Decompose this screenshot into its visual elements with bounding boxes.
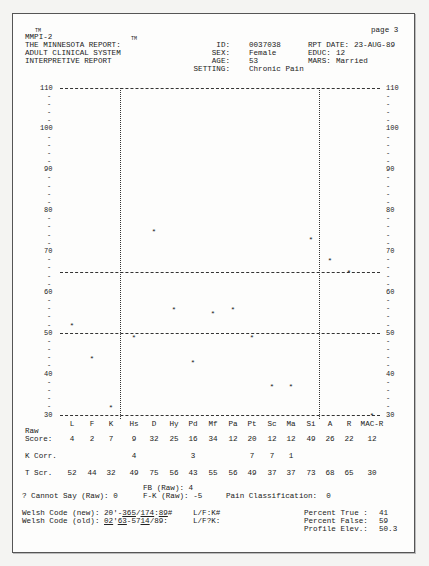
score-cell: 9 bbox=[132, 435, 137, 443]
y-axis-tick: - bbox=[47, 313, 51, 320]
scale-label-d: D bbox=[152, 420, 157, 428]
trademark-mark: TM bbox=[131, 35, 137, 43]
y-axis-tick-right: - bbox=[386, 264, 390, 271]
y-axis-tick-right: - bbox=[386, 223, 390, 230]
y-axis-tick: - bbox=[47, 281, 51, 288]
y-axis-tick: - bbox=[47, 174, 51, 181]
y-axis-tick: - bbox=[47, 240, 51, 247]
setting-value: Chronic Pain bbox=[249, 65, 304, 73]
y-axis-tick: - bbox=[47, 191, 51, 198]
data-point-r: * bbox=[347, 269, 352, 277]
y-axis-tick: - bbox=[47, 150, 51, 157]
score-cell: 49 bbox=[129, 469, 138, 477]
y-axis-tick-right: - bbox=[386, 403, 390, 410]
score-cell: 75 bbox=[149, 469, 158, 477]
y-axis-tick: - bbox=[47, 322, 51, 329]
y-axis-tick-right: - bbox=[386, 322, 390, 329]
score-cell: 37 bbox=[267, 469, 276, 477]
data-point-pa: * bbox=[231, 306, 236, 314]
y-axis-tick-right: - bbox=[386, 338, 390, 345]
y-axis-label-right: 110 bbox=[386, 85, 399, 92]
y-axis-tick: - bbox=[47, 199, 51, 206]
data-point-si: * bbox=[309, 236, 314, 244]
raw-label-1: Raw bbox=[25, 427, 39, 435]
scale-label-hs: Hs bbox=[129, 420, 138, 428]
score-cell: 32 bbox=[149, 435, 158, 443]
percent-true-value: 41 bbox=[379, 509, 388, 517]
y-axis-label-right: 80 bbox=[386, 207, 394, 214]
profile-elevation-value: 50.3 bbox=[379, 525, 397, 533]
percent-false-label: Percent False: bbox=[304, 517, 368, 525]
welsh-new-lfk: L/F:K# bbox=[193, 509, 220, 517]
scale-label-hy: Hy bbox=[169, 420, 178, 428]
y-axis-tick-right: - bbox=[386, 117, 390, 124]
y-axis-tick-right: - bbox=[386, 379, 390, 386]
score-cell: 7 bbox=[109, 435, 114, 443]
y-axis-tick: - bbox=[47, 297, 51, 304]
y-axis-tick-right: - bbox=[386, 142, 390, 149]
data-point-l: * bbox=[70, 322, 75, 330]
y-axis-tick-right: - bbox=[386, 93, 390, 100]
y-axis-label-right: 40 bbox=[386, 371, 394, 378]
percent-true-label: Percent True : bbox=[304, 509, 368, 517]
data-point-f: * bbox=[90, 355, 95, 363]
score-cell: 16 bbox=[188, 435, 197, 443]
scale-label-pt: Pt bbox=[247, 420, 256, 428]
y-axis-tick: - bbox=[47, 305, 51, 312]
group-separator bbox=[319, 88, 320, 419]
y-axis-tick-right: - bbox=[386, 387, 390, 394]
mars-value: Married bbox=[336, 57, 368, 65]
scale-label-si: Si bbox=[306, 420, 315, 428]
y-axis-tick: - bbox=[47, 223, 51, 230]
y-axis-tick: - bbox=[47, 395, 51, 402]
score-cell: 55 bbox=[208, 469, 217, 477]
y-axis-tick-right: - bbox=[386, 150, 390, 157]
score-cell: 3 bbox=[191, 452, 196, 460]
score-cell: 52 bbox=[67, 469, 76, 477]
rpt-date-value: 23-AUG-89 bbox=[354, 41, 395, 49]
y-axis-label-right: 90 bbox=[386, 166, 394, 173]
educ-value: 12 bbox=[336, 49, 345, 57]
y-axis-tick-right: - bbox=[386, 134, 390, 141]
welsh-old-lfk: L/F?K: bbox=[193, 517, 220, 525]
data-point-hy: * bbox=[172, 306, 177, 314]
y-axis-tick-right: - bbox=[386, 215, 390, 222]
data-point-mf: * bbox=[211, 310, 216, 318]
score-cell: 37 bbox=[286, 469, 295, 477]
fb-raw: FB (Raw): 4 bbox=[143, 484, 193, 492]
y-axis-label: 70 bbox=[44, 248, 52, 255]
score-cell: 7 bbox=[250, 452, 255, 460]
welsh-code-new: Welsh Code (new): 20'-365/174:89# bbox=[22, 509, 172, 517]
y-axis-tick: - bbox=[47, 158, 51, 165]
y-axis-tick-right: - bbox=[386, 273, 390, 280]
scale-label-pd: Pd bbox=[188, 420, 197, 428]
percent-false-value: 59 bbox=[379, 517, 388, 525]
welsh-code-old: Welsh Code (old): 02'63-5714/89: bbox=[22, 517, 168, 525]
y-axis-tick-right: - bbox=[386, 313, 390, 320]
score-cell: 1 bbox=[289, 452, 294, 460]
score-cell: 49 bbox=[247, 469, 256, 477]
id-value: 0037038 bbox=[249, 41, 281, 49]
scale-label-l: L bbox=[70, 420, 75, 428]
y-axis-tick-right: - bbox=[386, 191, 390, 198]
report-title-line-2: ADULT CLINICAL SYSTEM bbox=[25, 49, 121, 57]
score-cell: 2 bbox=[90, 435, 95, 443]
sex-value: Female bbox=[249, 49, 276, 57]
scale-label-sc: Sc bbox=[267, 420, 276, 428]
reference-line-50 bbox=[60, 333, 380, 334]
y-axis-tick-right: - bbox=[386, 183, 390, 190]
y-axis-tick: - bbox=[47, 256, 51, 263]
score-cell: 44 bbox=[87, 469, 96, 477]
score-cell: 49 bbox=[306, 435, 315, 443]
y-axis-tick: - bbox=[47, 362, 51, 369]
y-axis-tick: - bbox=[47, 93, 51, 100]
data-point-pt: * bbox=[250, 334, 255, 342]
scale-label-mf: Mf bbox=[208, 420, 217, 428]
score-cell: 12 bbox=[267, 435, 276, 443]
y-axis-tick-right: - bbox=[386, 362, 390, 369]
score-cell: 22 bbox=[344, 435, 353, 443]
y-axis-tick: - bbox=[47, 109, 51, 116]
data-point-ma: * bbox=[289, 383, 294, 391]
y-axis-tick-right: - bbox=[386, 158, 390, 165]
report-title-line-3: INTERPRETIVE REPORT bbox=[25, 57, 112, 65]
